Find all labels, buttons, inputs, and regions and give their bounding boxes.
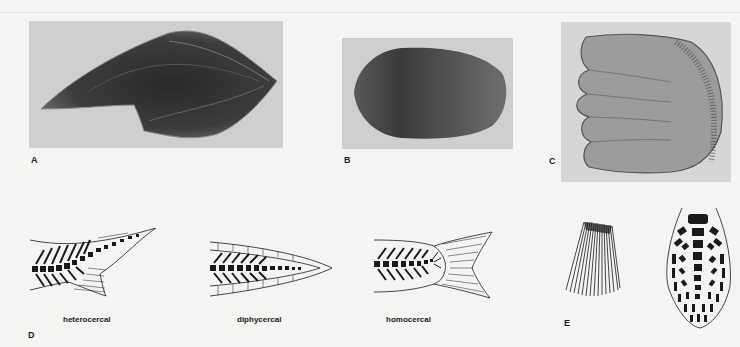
heterocercal-tail-drawing [28, 228, 160, 300]
photo-panel-b [342, 38, 513, 149]
photo-panel-a [29, 21, 283, 148]
caption-diphycercal: diphycercal [237, 315, 281, 324]
fin-skeleton-drawing [662, 206, 734, 330]
diphycercal-tail-drawing [208, 238, 336, 300]
heterocercal-tail-icon [28, 228, 160, 300]
page-top-rule [0, 12, 740, 13]
panel-label-b: B [344, 155, 351, 165]
lobed-scale-image [561, 22, 731, 182]
homocercal-tail-icon [372, 230, 494, 300]
fin-rays-icon [564, 220, 622, 300]
photo-panel-c [561, 22, 731, 182]
panel-label-a: A [31, 155, 38, 165]
fin-rays-drawing [564, 220, 622, 300]
caption-homocercal: homocercal [386, 315, 431, 324]
panel-label-c: C [549, 156, 556, 166]
homocercal-tail-drawing [372, 230, 494, 300]
panel-label-e: E [564, 318, 570, 328]
fin-skeleton-icon [662, 206, 734, 330]
diphycercal-tail-icon [208, 238, 336, 300]
oval-scale-image [342, 38, 513, 149]
panel-label-d: D [28, 330, 35, 340]
caption-heterocercal: heterocercal [63, 315, 111, 324]
elongated-scale-image [29, 21, 283, 148]
